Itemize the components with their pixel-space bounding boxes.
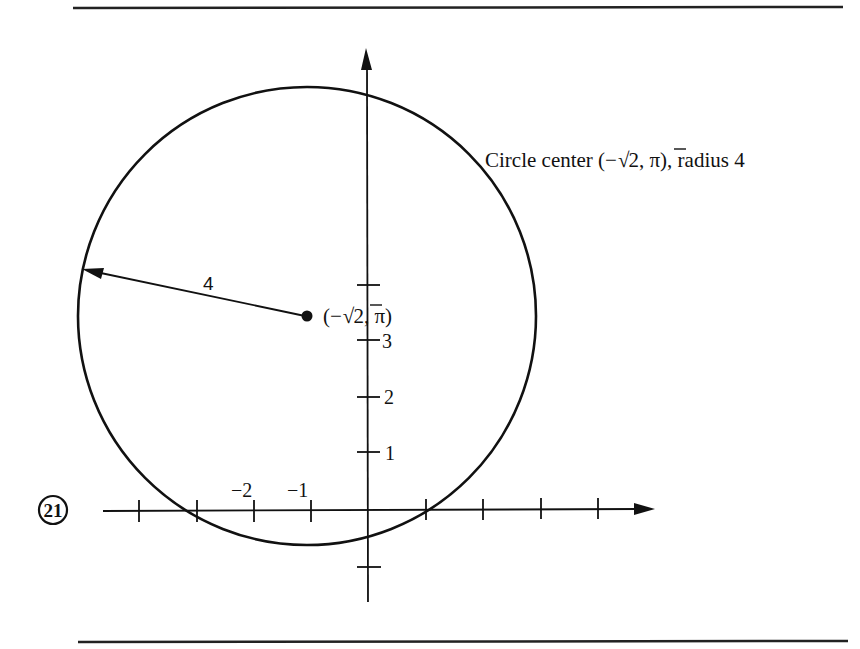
y-tick-label-2: 2 (384, 386, 394, 408)
y-axis-arrow-icon (361, 48, 372, 70)
circle-annotation: Circle center (−√2, π), radius 4 (485, 148, 745, 172)
radius-label: 4 (203, 273, 214, 294)
problem-number: 21 (44, 500, 63, 521)
x-tick-label-neg2: −2 (231, 479, 252, 501)
problem-number-badge: 21 (39, 496, 67, 524)
top-rule (73, 7, 843, 8)
svg-text:(−√2, π): (−√2, π) (323, 304, 392, 328)
radius-arrow (82, 268, 305, 316)
center-point (302, 311, 313, 322)
x-axis (103, 498, 655, 522)
y-tick-label-1: 1 (385, 442, 395, 464)
x-tick-label-neg1: −1 (287, 479, 308, 501)
figure-canvas: −2 −1 1 2 3 4 (−√2, π) Circle center (−√… (0, 0, 860, 649)
y-tick-label-3: 3 (382, 330, 392, 352)
bottom-rule (78, 641, 848, 642)
radius-arrowhead-icon (82, 268, 104, 279)
svg-text:Circle center (−√2, π), radius: Circle center (−√2, π), radius 4 (485, 148, 745, 172)
x-axis-arrow-icon (634, 503, 655, 515)
center-label: (−√2, π) (323, 304, 392, 328)
